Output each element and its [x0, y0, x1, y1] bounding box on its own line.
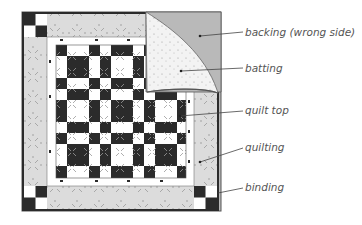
label-quilt-top: quilt top — [245, 104, 289, 116]
label-binding: binding — [245, 181, 284, 193]
label-quilting: quilting — [245, 141, 285, 153]
label-backing: backing (wrong side) — [245, 26, 355, 38]
folded-corner — [146, 12, 221, 93]
label-batting: batting — [245, 62, 283, 74]
